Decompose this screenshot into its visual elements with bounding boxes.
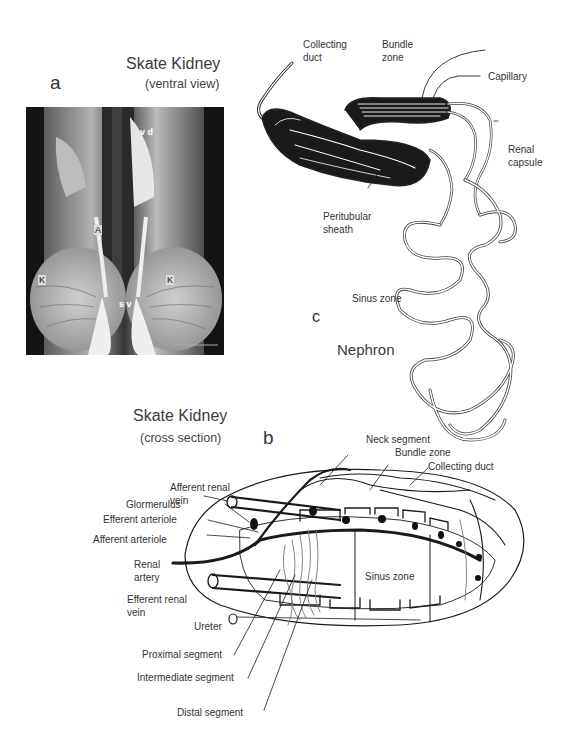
label-afferent-arteriole: Afferent arteriole — [93, 534, 167, 547]
label-neck-segment: Neck segment — [366, 434, 430, 447]
label-efferent-arteriole: Efferent arteriole — [103, 514, 177, 527]
label-glomerulus: Glormerulus — [126, 499, 180, 512]
label-sinus-zone: Sinus zone — [365, 571, 414, 584]
kidney-cross-section-drawing — [0, 0, 569, 729]
label-efferent-renal-vein: Efferent renal vein — [127, 594, 187, 619]
label-distal-segment: Distal segment — [177, 707, 243, 720]
label-ureter: Ureter — [194, 621, 222, 634]
label-collecting-duct: Collecting duct — [428, 461, 494, 474]
label-bundle-zone: Bundle zone — [395, 447, 451, 460]
label-renal-artery: Renal artery — [134, 559, 160, 584]
label-proximal-segment: Proximal segment — [142, 649, 222, 662]
label-intermediate-segment: Intermediate segment — [137, 672, 234, 685]
